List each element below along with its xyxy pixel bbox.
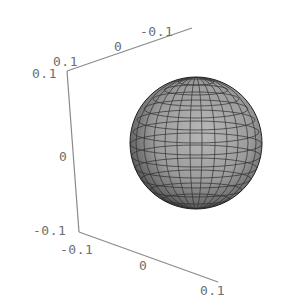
tick-bottom-mid: 0 xyxy=(139,259,147,272)
tick-top-back-mid: 0 xyxy=(114,40,122,53)
sphere-surface xyxy=(130,77,262,209)
tick-vert-top: 0.1 xyxy=(32,67,57,80)
tick-vert-bottom: -0.1 xyxy=(33,224,66,237)
tick-vert-mid: 0 xyxy=(59,150,67,163)
tick-bottom-left: -0.1 xyxy=(60,243,93,256)
tick-top-back-right: -0.1 xyxy=(140,25,173,38)
tick-bottom-right: 0.1 xyxy=(200,284,225,297)
